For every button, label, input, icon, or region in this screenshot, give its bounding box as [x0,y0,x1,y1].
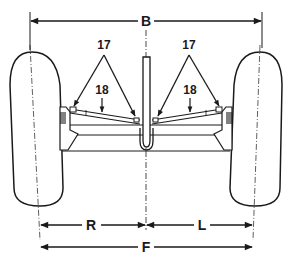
svg-text:L: L [198,217,207,233]
svg-text:18: 18 [95,83,109,97]
steering-arm [140,57,153,150]
left-tie-rod [70,107,140,124]
svg-text:18: 18 [183,83,197,97]
svg-text:17: 17 [182,38,196,52]
wheel-alignment-diagram: B [0,0,290,262]
left-wheel [10,45,63,240]
callout-18-left: 18 [95,83,109,112]
dimension-l: L [147,217,252,233]
right-wheel [230,45,282,240]
svg-text:17: 17 [97,38,111,52]
svg-text:F: F [142,239,151,255]
callout-17-left: 17 [74,38,135,116]
dimension-f: F [41,239,252,255]
right-tie-rod [152,107,222,124]
dimension-r: R [41,217,145,233]
svg-text:R: R [86,217,96,233]
dimension-b-label: B [141,13,151,29]
callout-18-right: 18 [183,83,197,112]
callout-17-right: 17 [158,38,219,116]
